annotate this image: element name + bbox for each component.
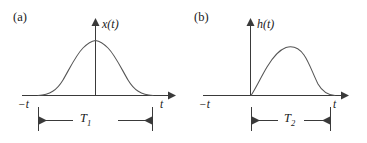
panel-b-time-axis-arrowhead	[341, 92, 349, 100]
panel-a-amplitude-axis-arrowhead	[92, 18, 100, 26]
panel-b-duration-subscript: 2	[291, 118, 295, 128]
panel-a-signal-label: x(t)	[102, 18, 119, 30]
figure-container: (a) x(t) −t t T1 (b)	[0, 0, 367, 143]
panel-b-axis-right-label: t	[333, 99, 336, 111]
panel-a-duration-label: T1	[80, 112, 91, 127]
panel-b: (b) h(t) −t t T2	[183, 0, 367, 143]
panel-a-dimension-arrow-right	[144, 117, 152, 125]
panel-b-duration-label: T2	[284, 112, 295, 127]
panel-b-dimension-arrow-left	[252, 117, 260, 125]
panel-b-signal-label: h(t)	[257, 18, 274, 30]
panel-a-time-axis-arrowhead	[168, 92, 176, 100]
panel-b-amplitude-axis-arrowhead	[247, 18, 255, 26]
panel-a-duration-symbol: T	[80, 111, 87, 125]
panel-a-axis-left-label: −t	[18, 99, 29, 111]
panel-a-graphic	[0, 0, 184, 143]
panel-a-dimension-arrow-left	[39, 117, 47, 125]
panel-a: (a) x(t) −t t T1	[0, 0, 184, 143]
panel-b-axis-left-label: −t	[199, 99, 210, 111]
panel-a-axis-right-label: t	[160, 99, 163, 111]
panel-b-duration-symbol: T	[284, 111, 291, 125]
panel-a-duration-subscript: 1	[87, 118, 91, 128]
panel-b-graphic	[183, 0, 367, 143]
panel-b-dimension-arrow-right	[322, 117, 330, 125]
panel-b-signal-curve	[251, 47, 335, 96]
